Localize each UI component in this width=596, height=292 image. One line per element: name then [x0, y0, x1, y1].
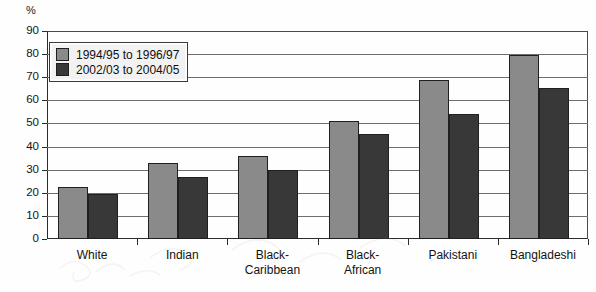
y-axis-tick-label: 0	[5, 232, 39, 244]
x-axis-tick	[137, 239, 138, 245]
bar	[359, 134, 389, 239]
y-axis-unit-label: %	[26, 4, 36, 16]
y-axis-tick	[42, 239, 47, 240]
bar	[238, 156, 268, 239]
bar-chart: % 0102030405060708090 WhiteIndianBlack- …	[0, 0, 596, 292]
bar	[539, 88, 569, 239]
bar	[268, 170, 298, 239]
y-axis-tick-label: 60	[5, 93, 39, 105]
bar	[148, 163, 178, 239]
y-axis-tick-label: 70	[5, 70, 39, 82]
legend-swatch-series-1	[56, 48, 69, 61]
legend-label-series-2: 2002/03 to 2004/05	[76, 63, 179, 77]
bar	[449, 114, 479, 239]
bar	[419, 80, 449, 239]
y-axis-tick-label: 90	[5, 24, 39, 36]
legend-swatch-series-2	[56, 63, 69, 76]
x-axis-tick	[588, 239, 589, 245]
y-axis-tick-label: 20	[5, 186, 39, 198]
y-axis-tick-label: 50	[5, 116, 39, 128]
x-axis-tick	[498, 239, 499, 245]
bar	[58, 187, 88, 239]
x-axis-label: Bangladeshi	[483, 248, 596, 263]
x-axis-tick	[227, 239, 228, 245]
legend-item: 2002/03 to 2004/05	[56, 62, 179, 77]
bar	[509, 55, 539, 239]
bar-group	[329, 31, 389, 239]
legend-item: 1994/95 to 1996/97	[56, 47, 179, 62]
bar	[178, 177, 208, 239]
bar	[329, 121, 359, 239]
bar-group	[509, 31, 569, 239]
y-axis-tick-label: 80	[5, 47, 39, 59]
bar	[88, 194, 118, 239]
x-axis-tick	[318, 239, 319, 245]
x-axis-tick	[408, 239, 409, 245]
y-axis-tick-label: 10	[5, 209, 39, 221]
chart-legend: 1994/95 to 1996/97 2002/03 to 2004/05	[49, 42, 188, 82]
legend-label-series-1: 1994/95 to 1996/97	[76, 48, 179, 62]
y-axis-tick-label: 30	[5, 163, 39, 175]
bar-group	[419, 31, 479, 239]
y-axis-tick-label: 40	[5, 140, 39, 152]
bar-group	[238, 31, 298, 239]
